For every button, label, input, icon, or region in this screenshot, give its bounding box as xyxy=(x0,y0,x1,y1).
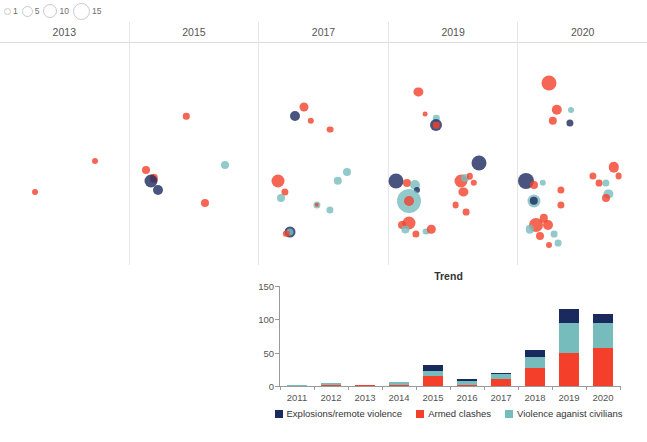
event-dot-violence_civilians xyxy=(555,239,562,246)
bar-segment-violence_civilians xyxy=(389,382,409,385)
event-dot-explosions xyxy=(153,185,163,195)
bar-segment-violence_civilians xyxy=(593,323,613,348)
bar-group xyxy=(321,286,341,386)
x-axis-tick-label: 2016 xyxy=(456,392,477,403)
y-axis: 050100150 xyxy=(250,286,280,386)
event-dot-violence_civilians xyxy=(551,231,558,238)
bar-segment-armed_clashes xyxy=(525,368,545,386)
bar-group xyxy=(491,286,511,386)
bar-group xyxy=(457,286,477,386)
event-dot-violence_civilians xyxy=(568,107,574,113)
bar-segment-armed_clashes xyxy=(491,379,511,386)
size-legend-label: 15 xyxy=(92,6,101,16)
event-dot-armed_clashes xyxy=(546,242,552,248)
x-axis-tick-label: 2014 xyxy=(388,392,409,403)
legend-swatch-explosions xyxy=(275,410,283,418)
map-panel-title: 2020 xyxy=(518,22,647,42)
event-dot-armed_clashes xyxy=(452,202,459,209)
bar-group xyxy=(389,286,409,386)
event-dot-explosions xyxy=(290,111,300,121)
event-dot-violence_civilians xyxy=(326,206,333,213)
x-axis-tick-mark xyxy=(348,386,349,390)
map-panel-strip: 20132015201720192020 xyxy=(0,22,647,265)
legend-item[interactable]: Violence aganist civilians xyxy=(505,408,622,419)
trend-chart-title: Trend xyxy=(250,270,647,282)
event-dot-armed_clashes xyxy=(557,201,564,208)
size-legend-label: 1 xyxy=(13,6,18,16)
map-panel-2017: 2017 xyxy=(258,22,388,265)
bar-segment-violence_civilians xyxy=(491,374,511,379)
event-dot-armed_clashes xyxy=(536,232,544,240)
event-dot-violence_civilians xyxy=(602,179,609,186)
circle-icon xyxy=(43,4,57,18)
event-dot-armed_clashes xyxy=(602,194,610,202)
y-axis-tick-label: 50 xyxy=(263,347,274,358)
bars-plot-area xyxy=(280,286,620,386)
map-panel-title: 2015 xyxy=(130,22,259,42)
map-panel-title: 2019 xyxy=(389,22,518,42)
bar-segment-explosions xyxy=(491,373,511,374)
size-legend-item: 1 xyxy=(4,6,22,16)
map-canvas xyxy=(130,43,259,265)
legend-swatch-armed_clashes xyxy=(416,410,424,418)
event-dot-armed_clashes xyxy=(183,113,189,119)
event-dot-armed_clashes xyxy=(327,126,334,133)
event-dot-armed_clashes xyxy=(530,181,538,189)
bar-group xyxy=(525,286,545,386)
bar-group xyxy=(559,286,579,386)
map-panel-2020: 2020 xyxy=(517,22,647,265)
trend-legend: Explosions/remote violenceArmed clashesV… xyxy=(250,408,647,419)
x-axis-tick-label: 2017 xyxy=(490,392,511,403)
bar-segment-violence_civilians xyxy=(525,357,545,368)
event-dot-armed_clashes xyxy=(542,75,557,90)
event-dot-armed_clashes xyxy=(543,220,553,230)
event-dot-violence_civilians xyxy=(277,194,285,202)
x-axis-tick-mark xyxy=(518,386,519,390)
x-axis-tick-mark xyxy=(552,386,553,390)
legend-label: Armed clashes xyxy=(428,408,491,419)
bar-segment-violence_civilians xyxy=(423,371,443,376)
bar-segment-armed_clashes xyxy=(423,376,443,386)
y-axis-tick-label: 150 xyxy=(258,281,274,292)
event-dot-layer xyxy=(259,43,388,265)
x-axis-tick-mark xyxy=(620,386,621,390)
x-axis-tick-label: 2018 xyxy=(524,392,545,403)
bar-group xyxy=(593,286,613,386)
legend-item[interactable]: Explosions/remote violence xyxy=(275,408,403,419)
y-axis-tick-label: 0 xyxy=(269,381,274,392)
x-axis-tick-label: 2013 xyxy=(354,392,375,403)
x-axis-tick-label: 2019 xyxy=(558,392,579,403)
x-axis-tick-mark xyxy=(314,386,315,390)
x-axis-tick-mark xyxy=(416,386,417,390)
event-dot-armed_clashes xyxy=(549,116,557,124)
event-dot-armed_clashes xyxy=(552,104,562,114)
bar-segment-explosions xyxy=(559,309,579,323)
x-axis-tick-mark xyxy=(586,386,587,390)
event-dot-armed_clashes xyxy=(404,196,414,206)
event-dot-armed_clashes xyxy=(589,173,596,180)
size-legend-label: 10 xyxy=(59,6,68,16)
bar-segment-violence_civilians xyxy=(321,383,341,386)
bar-segment-explosions xyxy=(593,314,613,323)
map-canvas xyxy=(0,43,129,265)
circle-icon xyxy=(73,3,90,20)
event-dot-armed_clashes xyxy=(414,87,423,96)
event-dot-armed_clashes xyxy=(32,189,38,195)
bar-group xyxy=(423,286,443,386)
bar-segment-armed_clashes xyxy=(355,385,375,386)
circle-icon xyxy=(22,6,33,17)
map-panel-2019: 2019 xyxy=(388,22,518,265)
size-legend-item: 10 xyxy=(43,4,72,18)
map-canvas xyxy=(389,43,518,265)
map-panel-title: 2013 xyxy=(0,22,129,42)
event-dot-armed_clashes xyxy=(557,186,564,193)
legend-label: Explosions/remote violence xyxy=(287,408,403,419)
legend-label: Violence aganist civilians xyxy=(517,408,622,419)
event-dot-armed_clashes xyxy=(142,166,150,174)
event-dot-layer xyxy=(0,43,129,265)
bar-segment-violence_civilians xyxy=(457,381,477,385)
legend-item[interactable]: Armed clashes xyxy=(416,408,491,419)
map-canvas xyxy=(518,43,647,265)
x-axis-tick-label: 2011 xyxy=(287,392,307,403)
x-axis-tick-mark xyxy=(280,386,281,390)
